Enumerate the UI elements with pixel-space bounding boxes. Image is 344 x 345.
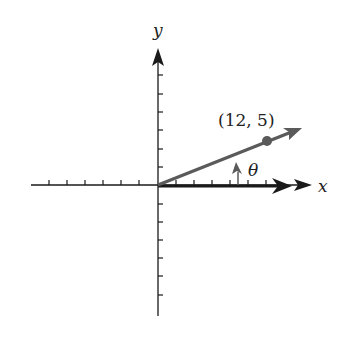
angle-arrowhead-icon [232, 162, 242, 174]
initial-side-ray [158, 178, 292, 194]
angle-label: θ [248, 160, 258, 180]
y-axis-label: y [152, 20, 163, 40]
coordinate-diagram: y x (12, 5) θ [0, 0, 344, 345]
x-axis-label: x [318, 176, 328, 196]
point-label: (12, 5) [218, 110, 275, 130]
terminal-side-ray [158, 128, 302, 185]
point-marker [262, 136, 272, 146]
angle-theta-indicator [232, 162, 242, 185]
